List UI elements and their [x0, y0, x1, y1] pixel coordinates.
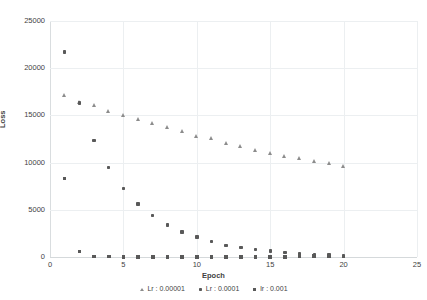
data-point-triangle — [297, 156, 301, 160]
data-point-triangle — [253, 148, 257, 152]
data-point-square — [327, 255, 331, 259]
data-point-square — [122, 255, 126, 259]
y-axis-tick-label: 20000 — [1, 64, 45, 72]
y-axis-tick-label: 25000 — [1, 17, 45, 25]
data-point-diamond — [122, 187, 125, 190]
x-axis-tick-label: 0 — [35, 261, 65, 269]
data-point-square — [195, 255, 199, 259]
data-point-triangle — [268, 151, 272, 155]
data-point-diamond — [63, 50, 66, 53]
data-point-square — [166, 255, 170, 259]
loss-vs-epoch-scatter-chart: Loss Epoch Lr : 0.00001Lr : 0.0001lr : 0… — [0, 0, 427, 300]
data-point-square — [342, 255, 346, 259]
data-point-diamond — [136, 202, 139, 205]
gridline-horizontal — [50, 115, 417, 116]
data-point-triangle — [327, 161, 331, 165]
data-point-triangle — [209, 136, 213, 140]
data-point-square — [283, 255, 287, 259]
data-point-triangle — [282, 154, 286, 158]
data-point-diamond — [92, 139, 95, 142]
data-point-triangle — [165, 125, 169, 129]
data-point-diamond — [166, 223, 169, 226]
data-point-diamond — [283, 251, 286, 254]
data-point-square — [210, 255, 214, 259]
data-point-triangle — [62, 93, 66, 97]
data-point-square — [298, 254, 302, 258]
data-point-square — [92, 255, 96, 259]
data-point-square — [78, 250, 82, 254]
data-point-triangle — [224, 141, 228, 145]
data-point-square — [224, 255, 228, 259]
data-point-square — [151, 255, 155, 259]
x-axis-tick-label: 25 — [402, 261, 427, 269]
data-point-triangle — [312, 159, 316, 163]
data-point-triangle — [238, 144, 242, 148]
data-point-square — [254, 255, 258, 259]
data-point-diamond — [107, 166, 110, 169]
y-axis-tick-label: 15000 — [1, 111, 45, 119]
legend-item-label: Lr : 0.00001 — [147, 285, 184, 293]
data-point-square — [63, 177, 67, 181]
x-axis-tick-label: 20 — [329, 261, 359, 269]
data-point-square — [239, 255, 243, 259]
data-point-diamond — [224, 244, 227, 247]
legend-item[interactable]: Lr : 0.0001 — [198, 285, 239, 293]
data-point-diamond — [195, 235, 198, 238]
chart-legend: Lr : 0.00001Lr : 0.0001lr : 0.001 — [0, 285, 427, 293]
data-point-square — [180, 255, 184, 259]
legend-marker-diamond-icon — [198, 287, 203, 292]
x-axis-tick-label: 10 — [182, 261, 212, 269]
y-axis-tick-label: 5000 — [1, 206, 45, 214]
legend-item[interactable]: lr : 0.001 — [252, 285, 287, 293]
gridline-horizontal — [50, 21, 417, 22]
gridline-vertical — [197, 21, 198, 257]
data-point-square — [312, 254, 316, 258]
data-point-triangle — [136, 117, 140, 121]
gridline-vertical — [344, 21, 345, 257]
legend-item[interactable]: Lr : 0.00001 — [139, 285, 184, 293]
data-point-square — [136, 255, 140, 259]
data-point-triangle — [180, 129, 184, 133]
gridline-vertical — [123, 21, 124, 257]
data-point-triangle — [150, 121, 154, 125]
x-axis-title: Epoch — [0, 271, 427, 280]
legend-item-label: lr : 0.001 — [260, 285, 287, 293]
data-point-triangle — [106, 109, 110, 113]
data-point-triangle — [121, 113, 125, 117]
gridline-vertical — [270, 21, 271, 257]
gridline-horizontal — [50, 68, 417, 69]
x-axis-tick-label: 15 — [255, 261, 285, 269]
data-point-diamond — [254, 248, 257, 251]
data-point-triangle — [194, 134, 198, 138]
x-axis-tick-label: 5 — [108, 261, 138, 269]
data-point-triangle — [341, 164, 345, 168]
y-axis-tick-label: 0 — [1, 253, 45, 261]
y-axis-tick-label: 10000 — [1, 159, 45, 167]
data-point-diamond — [151, 214, 154, 217]
gridline-horizontal — [50, 210, 417, 211]
data-point-triangle — [92, 103, 96, 107]
legend-marker-triangle-icon — [139, 287, 144, 292]
data-point-diamond — [210, 240, 213, 243]
data-point-square — [268, 255, 272, 259]
data-point-diamond — [180, 230, 183, 233]
data-point-diamond — [239, 246, 242, 249]
gridline-vertical — [417, 21, 418, 257]
x-axis-line — [50, 257, 417, 258]
legend-marker-square-icon — [252, 287, 257, 292]
legend-item-label: Lr : 0.0001 — [206, 285, 239, 293]
data-point-diamond — [269, 249, 272, 252]
data-point-square — [107, 255, 111, 259]
gridline-horizontal — [50, 163, 417, 164]
data-point-diamond — [78, 101, 81, 104]
plot-area — [50, 21, 417, 257]
